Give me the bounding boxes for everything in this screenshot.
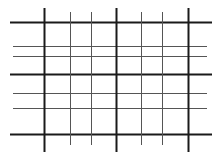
vertical-grid-lines [45,8,189,152]
horizontal-grid-lines [10,23,212,135]
grid-diagram [0,0,223,160]
